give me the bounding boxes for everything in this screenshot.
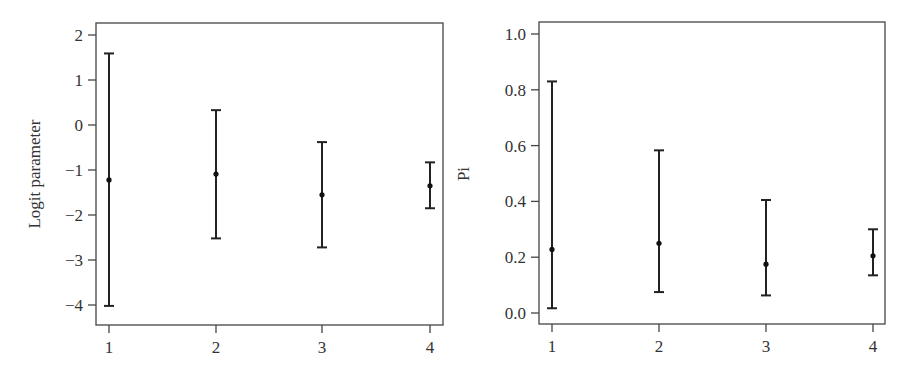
- point-estimate: [427, 183, 432, 188]
- y-axis-label-right: Pi: [454, 167, 473, 181]
- y-tick-label: 2: [75, 26, 84, 45]
- y-axis-label-left: Logit parameter: [25, 119, 44, 228]
- point-estimate: [213, 171, 218, 176]
- y-tick-label: 0.2: [505, 248, 526, 267]
- y-tick-label: 1: [75, 71, 84, 90]
- error-bar: [104, 53, 114, 305]
- error-bar: [425, 162, 435, 208]
- y-axis-right: 1.00.80.60.40.20.0: [505, 25, 539, 323]
- point-estimate: [763, 262, 768, 267]
- point-estimate: [319, 192, 324, 197]
- error-bars-left: [104, 53, 435, 305]
- y-tick-label: −3: [65, 251, 83, 270]
- y-tick-label: 0.0: [505, 304, 526, 323]
- error-bar: [547, 81, 557, 308]
- error-bar: [868, 229, 878, 275]
- x-axis-right: 1234: [548, 324, 878, 356]
- plot-frame-left: [96, 23, 443, 325]
- y-tick-label: 0.8: [505, 81, 526, 100]
- x-tick-label: 3: [318, 338, 327, 357]
- logit-parameter-panel: 210−1−2−3−4 1234 Logit parameter: [25, 23, 443, 357]
- y-tick-label: −2: [65, 206, 83, 225]
- chart-figure: 210−1−2−3−4 1234 Logit parameter 1.00.80…: [0, 0, 911, 371]
- x-axis-left: 1234: [105, 325, 435, 357]
- x-tick-label: 4: [869, 337, 878, 356]
- y-axis-left: 210−1−2−3−4: [65, 26, 96, 315]
- point-estimate: [549, 247, 554, 252]
- x-tick-label: 2: [212, 338, 221, 357]
- x-tick-label: 2: [655, 337, 664, 356]
- y-tick-label: 0.6: [505, 137, 526, 156]
- plot-frame-right: [539, 22, 885, 324]
- pi-panel: 1.00.80.60.40.20.0 1234 Pi: [454, 22, 885, 356]
- point-estimate: [106, 177, 111, 182]
- x-tick-label: 1: [548, 337, 557, 356]
- point-estimate: [656, 241, 661, 246]
- error-bar: [317, 142, 327, 247]
- y-tick-label: −4: [65, 296, 84, 315]
- y-tick-label: 0.4: [505, 192, 527, 211]
- error-bar: [761, 200, 771, 295]
- error-bar: [654, 150, 664, 292]
- error-bars-right: [547, 81, 878, 308]
- x-tick-label: 1: [105, 338, 114, 357]
- point-estimate: [870, 253, 875, 258]
- y-tick-label: 1.0: [505, 25, 526, 44]
- x-tick-label: 3: [762, 337, 771, 356]
- error-bar: [211, 110, 221, 238]
- x-tick-label: 4: [426, 338, 435, 357]
- y-tick-label: −1: [65, 161, 83, 180]
- y-tick-label: 0: [75, 116, 84, 135]
